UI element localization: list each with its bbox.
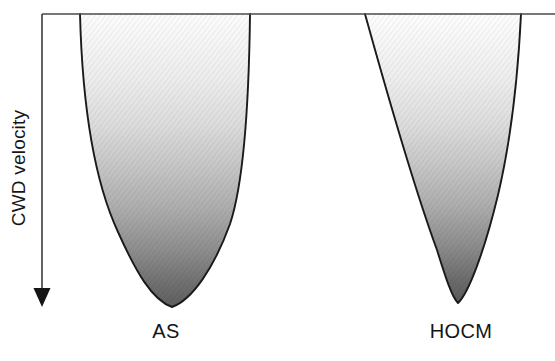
as-waveform — [80, 14, 250, 307]
y-axis-label: CWD velocity — [8, 110, 29, 227]
as-waveform-texture — [80, 14, 250, 307]
as-curve-label: AS — [152, 320, 179, 342]
cwd-velocity-figure: CWD velocity AS HOCM — [0, 0, 555, 361]
hocm-waveform-texture — [365, 14, 521, 303]
hocm-curve-label: HOCM — [430, 320, 492, 342]
y-axis — [34, 14, 51, 307]
y-axis-arrow-down-icon — [34, 288, 51, 307]
hocm-waveform — [365, 14, 521, 303]
